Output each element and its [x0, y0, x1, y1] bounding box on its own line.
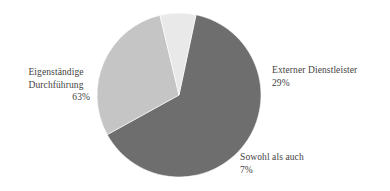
slice-value-externer: 29%: [272, 77, 357, 90]
slice-value-sowohl: 7%: [240, 164, 304, 177]
slice-label-externer-dienstleister: Externer Dienstleister 29%: [272, 64, 357, 89]
slice-label-sowohl-als-auch: Sowohl als auch 7%: [240, 151, 304, 176]
slice-label-eigenstaendige-line1: Eigenständige: [8, 66, 104, 79]
slice-label-externer-line1: Externer Dienstleister: [272, 65, 357, 75]
slice-label-eigenstaendige-line2: Durchführung: [8, 79, 104, 92]
pie-chart: Eigenständige Durchführung 63% Externer …: [0, 0, 390, 191]
slice-label-eigenstaendige-durchfuehrung: Eigenständige Durchführung 63%: [8, 66, 104, 104]
slice-label-sowohl-line1: Sowohl als auch: [240, 152, 304, 162]
slice-value-eigenstaendige: 63%: [8, 91, 104, 104]
pie-slices-group: [97, 13, 261, 177]
